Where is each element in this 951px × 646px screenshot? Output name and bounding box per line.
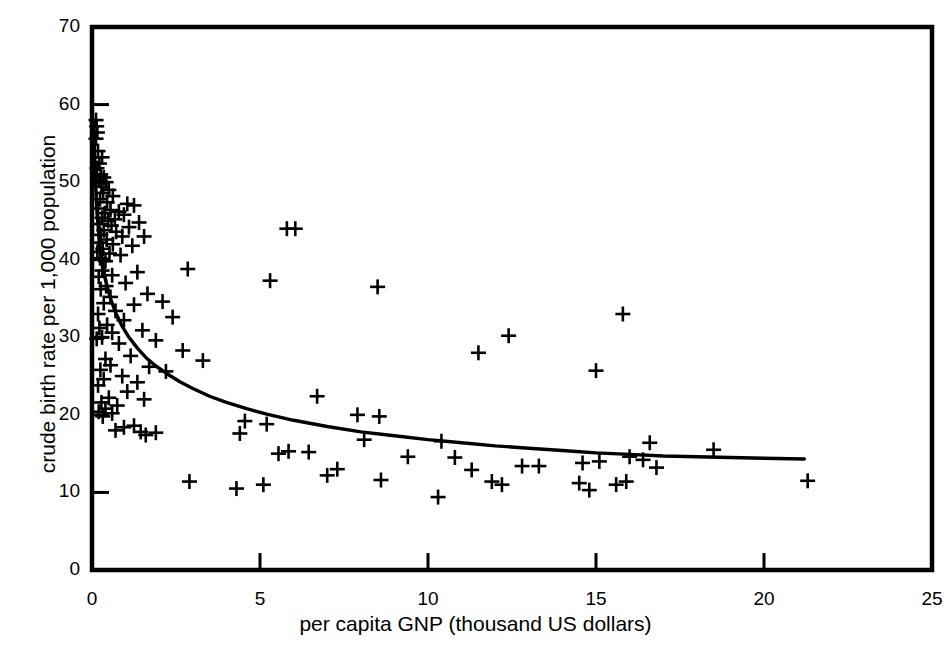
data-point-marker — [471, 345, 486, 360]
data-point-marker — [259, 417, 274, 432]
data-point-marker — [130, 375, 145, 390]
data-point-marker — [165, 310, 180, 325]
data-point-marker — [281, 444, 296, 459]
data-point-marker — [123, 348, 138, 363]
data-point-marker — [592, 454, 607, 469]
x-tick-label: 0 — [69, 588, 115, 610]
data-point-marker — [115, 369, 130, 384]
data-point-marker — [127, 198, 142, 213]
data-point-marker — [301, 445, 316, 460]
data-point-marker — [118, 275, 133, 290]
data-point-marker — [288, 221, 303, 236]
data-point-marker — [155, 294, 170, 309]
data-point-marker — [370, 279, 385, 294]
data-point-marker — [140, 286, 155, 301]
data-point-marker — [484, 474, 499, 489]
data-point-marker — [113, 248, 128, 263]
data-point-marker — [372, 409, 387, 424]
chart-container: 010203040506070 0510152025 crude birth r… — [0, 0, 951, 646]
data-point-marker — [649, 460, 664, 475]
data-point-marker — [116, 420, 131, 435]
data-point-marker — [642, 435, 657, 450]
data-point-marker — [615, 307, 630, 322]
data-point-marker — [515, 459, 530, 474]
data-point-marker — [619, 474, 634, 489]
data-point-marker — [431, 490, 446, 505]
data-point-marker — [575, 455, 590, 470]
data-point-marker — [589, 363, 604, 378]
data-point-marker — [263, 273, 278, 288]
y-axis-title: crude birth rate per 1,000 population — [36, 24, 60, 584]
data-point-marker — [182, 474, 197, 489]
data-point-marker — [501, 328, 516, 343]
data-point-marker — [350, 407, 365, 422]
data-point-marker — [148, 425, 163, 440]
data-point-marker — [447, 450, 462, 465]
x-axis-title: per capita GNP (thousand US dollars) — [0, 612, 951, 636]
data-point-marker — [135, 323, 150, 338]
data-point-marker — [120, 384, 135, 399]
data-point-marker — [531, 459, 546, 474]
x-tick-label: 10 — [405, 588, 451, 610]
data-point-marker — [706, 442, 721, 457]
data-point-marker — [800, 473, 815, 488]
data-point-marker — [195, 353, 210, 368]
data-point-marker — [175, 343, 190, 358]
data-point-marker — [137, 229, 152, 244]
x-tick-label: 25 — [909, 588, 951, 610]
data-point-marker — [130, 265, 145, 280]
data-point-marker — [229, 481, 244, 496]
scatter-plot-svg — [0, 0, 951, 646]
fitted-curve — [94, 120, 805, 459]
data-point-marker — [373, 473, 388, 488]
data-point-marker — [125, 238, 140, 253]
x-tick-label: 5 — [237, 588, 283, 610]
data-point-marker — [609, 477, 624, 492]
axis-ticks — [92, 105, 932, 570]
data-point-marker — [464, 462, 479, 477]
data-point-marker — [256, 477, 271, 492]
data-point-marker — [108, 423, 123, 438]
data-point-marker — [137, 392, 152, 407]
data-point-marker — [572, 476, 587, 491]
data-point-marker — [180, 262, 195, 277]
data-point-marker — [310, 389, 325, 404]
data-point-marker — [622, 449, 637, 464]
x-tick-label: 20 — [741, 588, 787, 610]
data-point-marker — [148, 333, 163, 348]
data-point-marker — [400, 449, 415, 464]
x-tick-label: 15 — [573, 588, 619, 610]
data-point-marker — [582, 483, 597, 498]
data-point-marker — [111, 336, 126, 351]
data-point-marker — [494, 477, 509, 492]
data-points — [89, 113, 816, 505]
data-point-marker — [271, 446, 286, 461]
data-point-marker — [127, 297, 142, 312]
data-point-marker — [120, 196, 135, 211]
plot-frame — [92, 27, 932, 570]
